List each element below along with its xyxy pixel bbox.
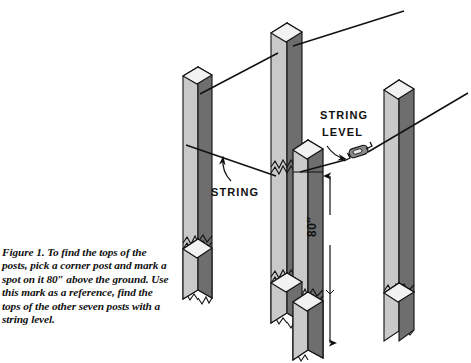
figure-caption: Figure 1. To find the tops of the posts,… [2, 246, 170, 326]
dimension-label: 80″ [305, 216, 319, 237]
string-level-label-line2: LEVEL [322, 126, 363, 138]
figure-caption-lead: Figure 1. [2, 246, 44, 258]
post-right-dark-face [399, 80, 414, 292]
string-label: STRING [211, 186, 259, 198]
string-level-label-line1: STRING [320, 109, 368, 121]
post-right [384, 80, 414, 341]
post-right-light-face [384, 80, 399, 293]
figure-page: STRING STRING LEVEL 80″ Figure 1. To fin… [0, 0, 471, 363]
